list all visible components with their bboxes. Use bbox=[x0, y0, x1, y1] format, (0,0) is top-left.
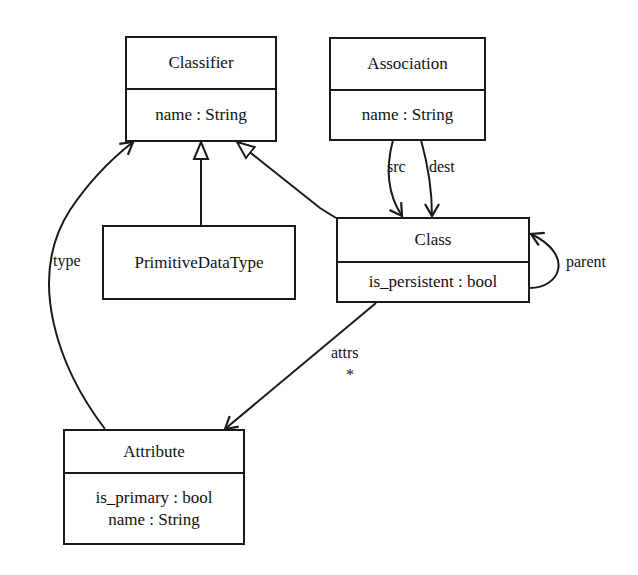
generalization-class-to-classifier bbox=[237, 142, 336, 218]
class-attributes: is_primary : bool name : String bbox=[65, 474, 243, 543]
association-parent bbox=[530, 234, 559, 288]
class-name: Classifier bbox=[127, 38, 275, 90]
edge-multiplicity-attrs: * bbox=[346, 366, 354, 384]
attribute-row: name : String bbox=[362, 104, 454, 126]
class-box-primitive-data-type[interactable]: PrimitiveDataType bbox=[102, 225, 296, 300]
class-name: Attribute bbox=[65, 431, 243, 474]
edge-label-src: src bbox=[387, 158, 406, 176]
class-name: Association bbox=[331, 39, 484, 91]
attribute-row: is_primary : bool bbox=[95, 487, 212, 509]
attribute-row: is_persistent : bool bbox=[369, 271, 497, 293]
class-box-attribute[interactable]: Attribute is_primary : bool name : Strin… bbox=[63, 429, 245, 545]
class-name: PrimitiveDataType bbox=[104, 227, 294, 298]
association-src bbox=[389, 140, 402, 216]
attribute-row: name : String bbox=[108, 509, 200, 531]
association-dest bbox=[421, 140, 432, 216]
class-attributes: name : String bbox=[127, 90, 275, 140]
class-name: Class bbox=[338, 219, 528, 263]
class-box-class[interactable]: Class is_persistent : bool bbox=[336, 217, 530, 303]
edge-label-dest: dest bbox=[429, 158, 455, 176]
class-box-association[interactable]: Association name : String bbox=[329, 37, 486, 141]
attribute-row: name : String bbox=[155, 104, 247, 126]
class-attributes: is_persistent : bool bbox=[338, 263, 528, 301]
edge-label-attrs: attrs bbox=[331, 344, 359, 362]
class-attributes: name : String bbox=[331, 91, 484, 139]
edge-label-type: type bbox=[53, 252, 81, 270]
edge-label-parent: parent bbox=[566, 253, 606, 271]
class-box-classifier[interactable]: Classifier name : String bbox=[125, 36, 277, 142]
